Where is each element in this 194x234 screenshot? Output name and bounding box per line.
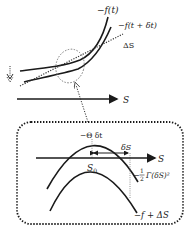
label-inset-axis-s: S: [158, 154, 164, 164]
svg-text:2: 2: [140, 175, 144, 182]
svg-text:1: 1: [140, 167, 144, 174]
curve-f-t-plus-dt: [24, 27, 111, 82]
svg-text:−: −: [133, 171, 140, 180]
diagram-canvas: −f(t) −f(t + δt) ΔS S −Θ δt δS S S0 − 1: [0, 0, 194, 234]
tangent-line-dotted: [20, 34, 123, 86]
label-quadratic-term: − 1 2 Γ(δS)²: [133, 167, 170, 182]
label-f-t-plus-dt: −f(t + δt): [118, 21, 157, 30]
lower-parabola: [50, 172, 137, 213]
top-panel: −f(t) −f(t + δt) ΔS S: [7, 5, 157, 122]
label-f-t: −f(t): [97, 5, 119, 15]
down-arrow-icon: [7, 66, 13, 82]
label-top-axis-s: S: [123, 95, 129, 105]
label-delta-s: ΔS: [123, 41, 134, 50]
label-lower-curve: −f + ΔS: [134, 210, 169, 220]
label-delta-s-inset: δS: [121, 143, 132, 152]
curve-f-t: [20, 17, 108, 71]
connector-dotted-arrow: [76, 85, 88, 122]
svg-text:Γ(δS)²: Γ(δS)²: [145, 171, 170, 180]
inset-panel: −Θ δt δS S S0 − 1 2 Γ(δS)² −f + ΔS: [17, 122, 183, 224]
label-peak-theta: −Θ δt: [80, 131, 102, 140]
label-s0: S0: [87, 163, 97, 174]
arrow-left-icon: [93, 151, 98, 156]
